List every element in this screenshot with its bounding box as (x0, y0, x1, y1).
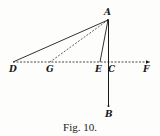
label-d: D (8, 64, 17, 74)
label-a: A (103, 7, 111, 17)
figure-10: A D G E C F B Fig. 10. (0, 0, 160, 136)
label-f: F (142, 64, 150, 74)
line-ad (13, 20, 108, 62)
line-ag (50, 20, 108, 62)
line-ae (100, 20, 108, 62)
label-e: E (94, 64, 102, 74)
point-b (108, 105, 110, 107)
label-g: G (46, 64, 54, 74)
geometry-diagram: A D G E C F B Fig. 10. (0, 0, 160, 136)
point-a (107, 19, 109, 21)
label-c: C (108, 64, 116, 74)
label-b: B (104, 109, 113, 119)
figure-caption: Fig. 10. (63, 121, 97, 133)
